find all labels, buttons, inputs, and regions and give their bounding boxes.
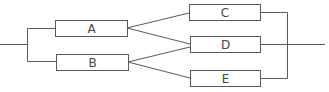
node-c-label: C (221, 6, 229, 20)
edge-a-to-d (127, 28, 190, 44)
node-e-label: E (222, 72, 230, 86)
edge-b-to-d (128, 47, 190, 62)
block-diagram: A B C D E (0, 0, 329, 92)
node-d-label: D (221, 38, 230, 52)
edge-a-to-c (127, 13, 189, 28)
node-b-label: B (88, 56, 96, 70)
edge-b-to-e (128, 62, 190, 78)
node-a-label: A (87, 22, 96, 36)
